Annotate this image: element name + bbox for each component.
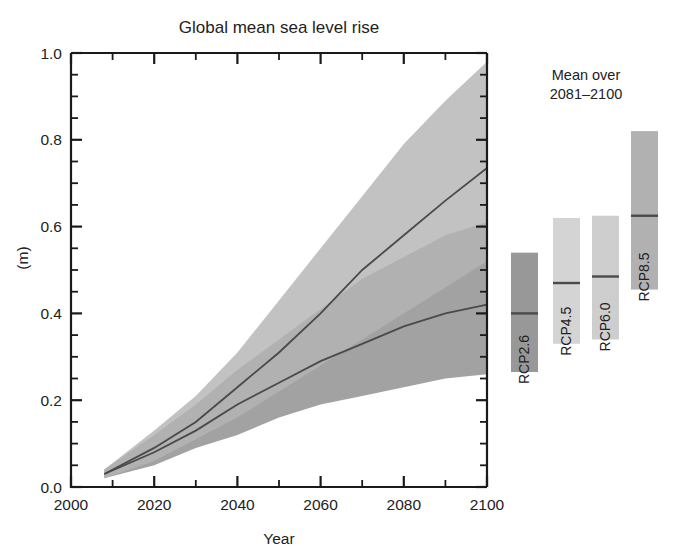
legend-title-line-2: 2081–2100 [550,86,623,102]
x-tick-label: 2000 [54,496,89,513]
sea-level-rise-figure: Global mean sea level rise 0.00.20.40.60… [0,0,674,556]
y-tick-label: 1.0 [40,45,62,62]
x-tick-label: 2080 [387,496,422,513]
y-tick-label: 0.6 [40,218,62,235]
y-axis-label: (m) [14,246,31,269]
y-tick-label: 0.4 [40,305,62,322]
x-axis-label: Year [263,530,294,547]
x-tick-label: 2100 [470,496,505,513]
range-bar-label-rcp6-0: RCP6.0 [598,302,614,351]
y-tick-label: 0.8 [40,131,62,148]
range-bar-label-rcp8-5: RCP8.5 [637,252,653,301]
x-tick-label: 2060 [303,496,338,513]
chart-canvas: Global mean sea level rise 0.00.20.40.60… [0,0,674,556]
range-bar-label-rcp4-5: RCP4.5 [559,307,575,356]
x-tick-label: 2040 [220,496,255,513]
y-tick-label: 0.2 [40,392,62,409]
scenario-range-bars: RCP2.6RCP4.5RCP6.0RCP8.5 [511,131,658,384]
y-tick-label: 0.0 [40,479,62,496]
envelope-rcp8-5 [104,62,487,479]
legend-title-line-1: Mean over [552,67,621,83]
range-bar-label-rcp2-6: RCP2.6 [517,335,533,384]
chart-title: Global mean sea level rise [179,18,379,37]
x-tick-label: 2020 [137,496,172,513]
plot-series-group [104,62,487,479]
